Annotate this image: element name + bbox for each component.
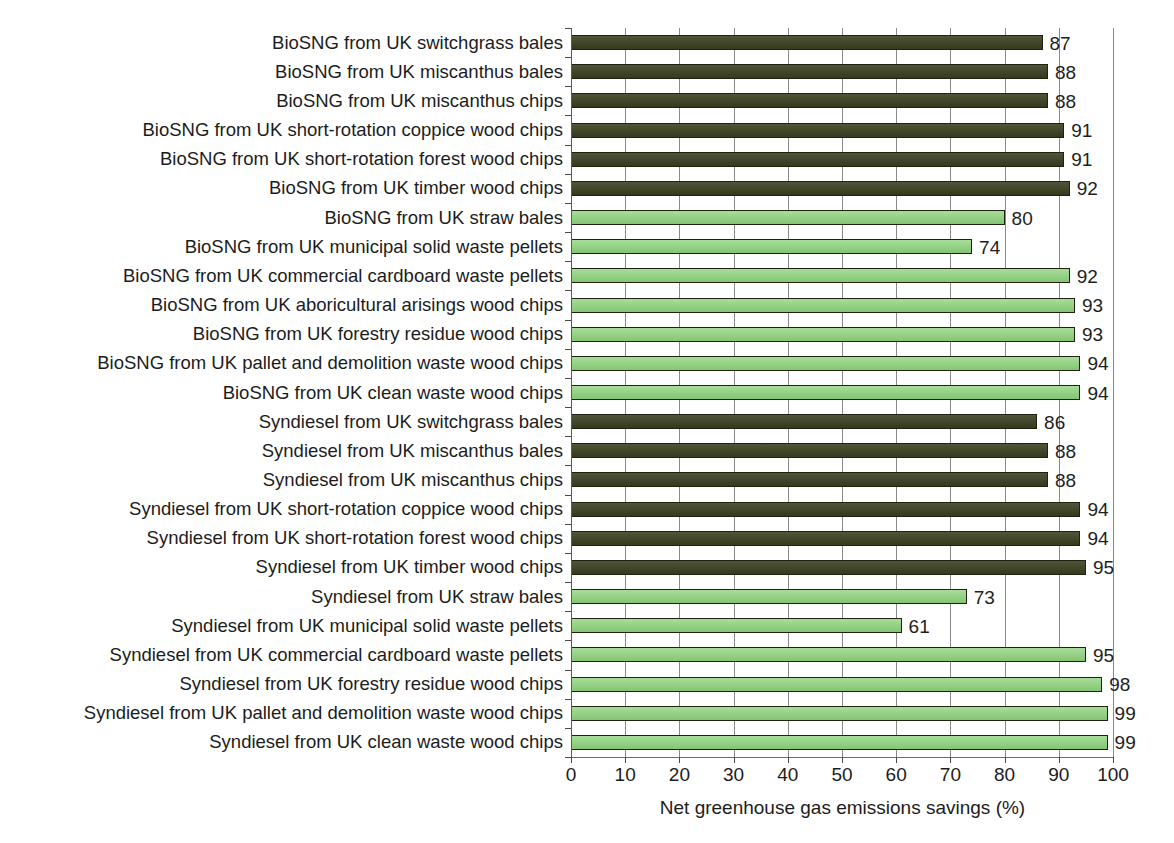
bar <box>571 502 1080 517</box>
bar <box>571 356 1080 371</box>
bar-value-label: 88 <box>1055 92 1076 111</box>
y-axis-category-label: BioSNG from UK straw bales <box>324 209 563 228</box>
bar-value-label: 80 <box>1012 209 1033 228</box>
bar-value-label: 92 <box>1077 267 1098 286</box>
bar-value-label: 99 <box>1115 704 1136 723</box>
bar <box>571 706 1108 721</box>
bar <box>571 64 1048 79</box>
y-axis-category-label: Syndiesel from UK forestry residue wood … <box>179 675 563 694</box>
y-axis-category-label: Syndiesel from UK short-rotation forest … <box>147 529 563 548</box>
y-axis-category-label: Syndiesel from UK pallet and demolition … <box>84 704 563 723</box>
bar-value-label: 98 <box>1109 675 1130 694</box>
y-axis-category-label: BioSNG from UK miscanthus chips <box>276 92 563 111</box>
y-axis-category-label: Syndiesel from UK timber wood chips <box>256 558 563 577</box>
y-axis-category-label: BioSNG from UK municipal solid waste pel… <box>185 238 563 257</box>
bar-value-label: 88 <box>1055 442 1076 461</box>
y-axis-category-label: BioSNG from UK aboricultural arisings wo… <box>151 296 563 315</box>
bar <box>571 210 1005 225</box>
bar <box>571 35 1043 50</box>
bar <box>571 93 1048 108</box>
bar <box>571 735 1108 750</box>
page-caption-sliver <box>0 834 1174 843</box>
bar-value-label: 88 <box>1055 471 1076 490</box>
bar <box>571 327 1075 342</box>
x-axis-tick-label: 90 <box>1048 765 1069 784</box>
y-axis-category-label: Syndiesel from UK short-rotation coppice… <box>129 500 563 519</box>
bar-value-label: 92 <box>1077 179 1098 198</box>
bar <box>571 385 1080 400</box>
bar-value-label: 95 <box>1093 646 1114 665</box>
x-axis-tick <box>896 757 897 763</box>
x-axis-tick-label: 80 <box>994 765 1015 784</box>
bar <box>571 298 1075 313</box>
bar <box>571 589 967 604</box>
x-axis-tick-label: 10 <box>615 765 636 784</box>
y-axis-category-label: BioSNG from UK forestry residue wood chi… <box>193 325 563 344</box>
x-axis-tick <box>679 757 680 763</box>
y-axis-category-label: Syndiesel from UK commercial cardboard w… <box>110 646 563 665</box>
bar-value-label: 93 <box>1082 325 1103 344</box>
x-axis-tick <box>734 757 735 763</box>
bar-value-label: 99 <box>1115 733 1136 752</box>
y-axis-line <box>571 28 572 758</box>
bar-value-label: 73 <box>974 588 995 607</box>
bar-value-label: 91 <box>1071 121 1092 140</box>
bar-value-label: 94 <box>1087 500 1108 519</box>
bar <box>571 618 902 633</box>
y-axis-category-label: BioSNG from UK pallet and demolition was… <box>97 354 563 373</box>
x-axis-title: Net greenhouse gas emissions savings (%) <box>571 798 1114 817</box>
bar <box>571 181 1070 196</box>
bar <box>571 414 1037 429</box>
bar-value-label: 93 <box>1082 296 1103 315</box>
y-axis-category-label: BioSNG from UK clean waste wood chips <box>223 384 563 403</box>
bar-value-label: 88 <box>1055 63 1076 82</box>
y-axis-category-label: Syndiesel from UK miscanthus chips <box>263 471 563 490</box>
bar <box>571 560 1086 575</box>
y-axis-category-label: BioSNG from UK short-rotation coppice wo… <box>142 121 563 140</box>
bar-value-label: 91 <box>1071 150 1092 169</box>
bar <box>571 268 1070 283</box>
bar-value-label: 94 <box>1087 354 1108 373</box>
bar <box>571 531 1080 546</box>
y-axis-category-label: Syndiesel from UK miscanthus bales <box>262 442 563 461</box>
bar-value-label: 94 <box>1087 384 1108 403</box>
bar-value-label: 86 <box>1044 413 1065 432</box>
bar <box>571 677 1102 692</box>
x-axis-tick-label: 30 <box>723 765 744 784</box>
y-axis-category-label: BioSNG from UK commercial cardboard wast… <box>123 267 563 286</box>
plot-area <box>571 28 1113 757</box>
x-axis-tick-label: 70 <box>940 765 961 784</box>
y-axis-category-label: Syndiesel from UK municipal solid waste … <box>171 617 563 636</box>
x-axis-tick-label: 0 <box>566 765 577 784</box>
x-axis-tick-label: 50 <box>831 765 852 784</box>
y-axis-category-label: Syndiesel from UK straw bales <box>311 588 563 607</box>
bar-value-label: 94 <box>1087 529 1108 548</box>
y-axis-category-label: BioSNG from UK timber wood chips <box>269 179 563 198</box>
x-axis-tick <box>842 757 843 763</box>
y-axis-category-label: BioSNG from UK short-rotation forest woo… <box>160 150 563 169</box>
bar-chart: BioSNG from UK switchgrass balesBioSNG f… <box>0 0 1174 843</box>
x-axis-tick <box>625 757 626 763</box>
x-axis-tick <box>1059 757 1060 763</box>
x-axis-tick <box>1005 757 1006 763</box>
bar-value-label: 87 <box>1050 34 1071 53</box>
x-axis-tick-label: 40 <box>777 765 798 784</box>
x-axis-tick <box>950 757 951 763</box>
bar-value-label: 61 <box>909 617 930 636</box>
x-axis-tick <box>788 757 789 763</box>
bar <box>571 239 972 254</box>
bar <box>571 647 1086 662</box>
bar-value-label: 74 <box>979 238 1000 257</box>
bar <box>571 152 1064 167</box>
x-axis-tick <box>571 757 572 763</box>
y-axis-category-label: Syndiesel from UK clean waste wood chips <box>209 733 563 752</box>
x-axis-tick <box>1113 757 1114 763</box>
bar <box>571 472 1048 487</box>
y-axis-category-label: BioSNG from UK switchgrass bales <box>272 34 563 53</box>
x-axis-tick-label: 100 <box>1097 765 1129 784</box>
bar <box>571 443 1048 458</box>
y-axis-category-label: BioSNG from UK miscanthus bales <box>275 63 563 82</box>
bar <box>571 123 1064 138</box>
bar-value-label: 95 <box>1093 558 1114 577</box>
y-axis-category-label: Syndiesel from UK switchgrass bales <box>259 413 563 432</box>
